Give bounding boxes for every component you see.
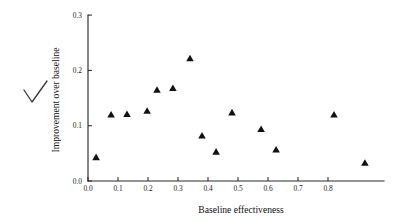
x-tick-label: 0.3 <box>173 184 183 193</box>
data-markers <box>92 55 368 166</box>
data-point-marker <box>198 132 206 139</box>
data-point-marker <box>186 55 194 62</box>
y-axis-title: Improvement over baseline <box>50 48 61 153</box>
data-point-marker <box>228 109 236 116</box>
data-point-marker <box>272 146 280 153</box>
y-tick-label: 0.2 <box>73 66 83 75</box>
data-point-marker <box>330 111 338 118</box>
data-point-marker <box>143 107 151 114</box>
y-tick-label: 0.0 <box>73 177 83 186</box>
plot-canvas: 0.00.10.20.30.40.50.60.70.80.00.10.20.3 … <box>0 0 394 222</box>
data-point-marker <box>257 125 265 132</box>
data-point-marker <box>153 86 161 93</box>
y-tick-label: 0.3 <box>73 11 83 20</box>
x-tick-label: 0.7 <box>293 184 303 193</box>
scatter-plot-figure: 0.00.10.20.30.40.50.60.70.80.00.10.20.3 … <box>0 0 394 222</box>
axis-ticks <box>88 15 328 181</box>
x-tick-label: 0.2 <box>143 184 153 193</box>
x-tick-label: 0.8 <box>323 184 333 193</box>
x-tick-label: 0.1 <box>113 184 123 193</box>
data-point-marker <box>169 84 177 91</box>
y-tick-label: 0.1 <box>73 121 83 130</box>
data-point-marker <box>212 148 220 155</box>
x-tick-label: 0.4 <box>203 184 213 193</box>
data-point-marker <box>107 111 115 118</box>
x-tick-label: 0.0 <box>83 184 93 193</box>
data-point-marker <box>123 110 131 117</box>
axis-tick-labels: 0.00.10.20.30.40.50.60.70.80.00.10.20.3 <box>73 11 333 193</box>
axes <box>88 15 384 181</box>
x-tick-label: 0.5 <box>233 184 243 193</box>
checkmark-icon <box>24 81 47 102</box>
x-tick-label: 0.6 <box>263 184 273 193</box>
data-point-marker <box>92 154 100 161</box>
x-axis-title: Baseline effectiveness <box>198 204 284 215</box>
data-point-marker <box>361 159 369 166</box>
